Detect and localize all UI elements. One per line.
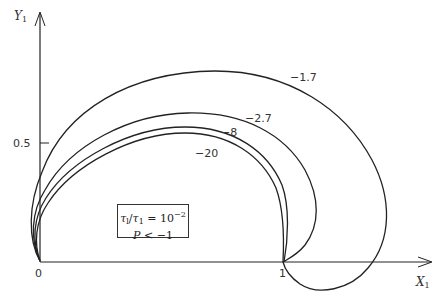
legend-equals: = 10 (144, 212, 174, 225)
y-axis-label-text: Y (14, 9, 22, 23)
x-axis-label-text: X (416, 275, 425, 289)
curve-label-minus-1-7: −1.7 (290, 72, 317, 83)
legend-exponent: −2 (174, 210, 186, 219)
tick-label-origin: 0 (35, 268, 42, 279)
legend-p-condition: < −1 (140, 229, 172, 242)
parameter-legend-box: τl/τ1 = 10−2 P < −1 (117, 204, 189, 238)
x-axis-label: X1 (416, 276, 430, 290)
diagram-canvas (0, 0, 446, 298)
curve-minus-1-7 (31, 71, 386, 290)
tick-label-x-1: 1 (279, 268, 286, 279)
legend-line-ratio: τl/τ1 = 10−2 (118, 208, 188, 229)
x-axis-label-sub: 1 (425, 281, 430, 290)
curve-label-minus-20: −20 (195, 148, 218, 159)
y-axis-label-sub: 1 (22, 15, 27, 24)
curve-label-minus-8: −8 (221, 127, 237, 138)
y-axis-label: Y1 (14, 10, 27, 24)
legend-line-p: P < −1 (118, 229, 188, 243)
tick-label-y-05: 0.5 (13, 138, 31, 149)
curve-label-minus-2-7: −2.7 (245, 113, 272, 124)
